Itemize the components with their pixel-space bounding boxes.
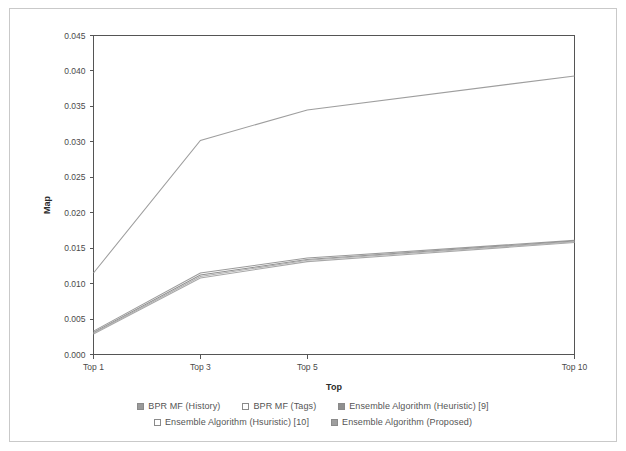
legend-swatch-icon [338, 403, 345, 410]
y-tick-label: 0.025 [64, 172, 86, 182]
x-tick-label: Top 3 [190, 362, 211, 372]
x-tick-label: Top 1 [83, 362, 104, 372]
legend-swatch-icon [137, 403, 144, 410]
y-tick-label: 0.015 [64, 243, 86, 253]
y-tick-label: 0.020 [64, 208, 86, 218]
y-axis-title: Map [42, 195, 52, 214]
legend-row-1: BPR MF (History) BPR MF (Tags) Ensemble … [0, 400, 626, 413]
legend-item[interactable]: BPR MF (History) [137, 400, 220, 413]
legend-swatch-icon [331, 419, 338, 426]
y-tick-label: 0.000 [64, 350, 86, 360]
legend-item-label: Ensemble Algorithm (Proposed) [342, 416, 472, 429]
plot-frame [94, 36, 575, 355]
legend-swatch-icon [242, 403, 249, 410]
legend-item-label: Ensemble Algorithm (Hsuristic) [10] [165, 416, 309, 429]
series-line-3 [94, 242, 575, 333]
legend-item-label: BPR MF (Tags) [253, 400, 316, 413]
series-line-4 [94, 76, 575, 273]
y-tick-label: 0.045 [64, 31, 86, 41]
legend-item[interactable]: Ensemble Algorithm (Proposed) [331, 416, 472, 429]
y-axis-ticks: 0.0000.0050.0100.0150.0200.0250.0300.035… [64, 31, 93, 360]
legend-item[interactable]: BPR MF (Tags) [242, 400, 316, 413]
legend-item[interactable]: Ensemble Algorithm (Hsuristic) [10] [154, 416, 309, 429]
series-line-0 [94, 240, 575, 331]
y-tick-label: 0.040 [64, 66, 86, 76]
plot-area: 0.0000.0050.0100.0150.0200.0250.0300.035… [0, 0, 626, 451]
legend-row-2: Ensemble Algorithm (Hsuristic) [10] Ense… [0, 416, 626, 429]
legend-item[interactable]: Ensemble Algorithm (Heuristic) [9] [338, 400, 488, 413]
x-axis-ticks: Top 1Top 3Top 5Top 10 [83, 355, 587, 372]
y-tick-label: 0.010 [64, 279, 86, 289]
legend-item-label: Ensemble Algorithm (Heuristic) [9] [349, 400, 488, 413]
x-axis-title: Top [326, 382, 342, 392]
chart-legend: BPR MF (History) BPR MF (Tags) Ensemble … [0, 400, 626, 429]
series-line-2 [94, 241, 575, 332]
data-series-group [94, 76, 575, 334]
legend-swatch-icon [154, 419, 161, 426]
y-tick-label: 0.005 [64, 314, 86, 324]
y-tick-label: 0.035 [64, 101, 86, 111]
chart-figure: 0.0000.0050.0100.0150.0200.0250.0300.035… [0, 0, 626, 451]
x-tick-label: Top 5 [297, 362, 318, 372]
y-tick-label: 0.030 [64, 137, 86, 147]
x-tick-label: Top 10 [562, 362, 588, 372]
legend-item-label: BPR MF (History) [148, 400, 220, 413]
line-chart-svg: 0.0000.0050.0100.0150.0200.0250.0300.035… [0, 0, 626, 451]
